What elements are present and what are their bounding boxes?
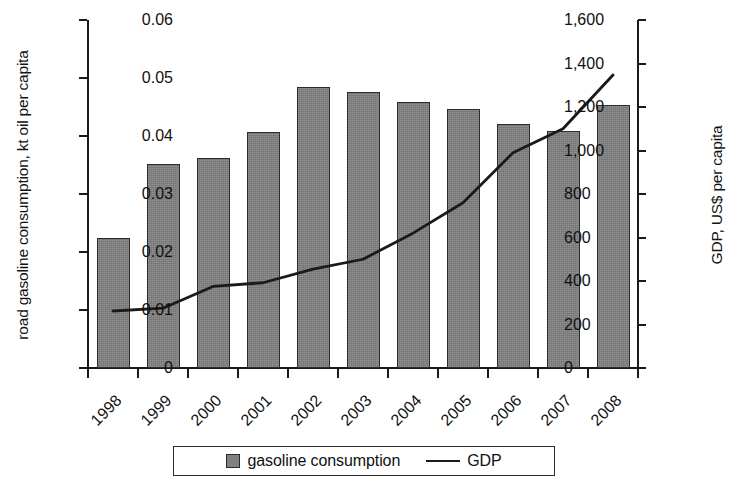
- x-axis-tick: [337, 369, 339, 378]
- y-axis-right-tick-label: 800: [564, 186, 591, 202]
- chart-figure: road gasoline consumption, kt oil per ca…: [0, 0, 735, 481]
- y-axis-left-tick: [79, 309, 87, 311]
- y-axis-left-tick-label: 0.04: [142, 128, 173, 144]
- y-axis-right-tick: [638, 193, 646, 195]
- y-axis-left-tick: [79, 19, 87, 21]
- y-axis-left-tick-label: 0.02: [142, 244, 173, 260]
- y-axis-right-tick-label: 200: [564, 317, 591, 333]
- x-axis-tick-label: 2002: [274, 392, 325, 443]
- y-axis-right-tick-label: 1,000: [564, 143, 604, 159]
- x-axis-tick: [387, 369, 389, 378]
- y-axis-left-tick-label: 0.01: [142, 302, 173, 318]
- y-axis-left-tick-label: 0.06: [142, 12, 173, 28]
- y-axis-right-tick-label: 0: [564, 360, 573, 376]
- y-axis-left-tick: [79, 193, 87, 195]
- x-axis-tick: [437, 369, 439, 378]
- chart-legend: gasoline consumption GDP: [173, 446, 555, 476]
- y-axis-right-tick-label: 1,400: [564, 56, 604, 72]
- y-axis-left-tick: [79, 135, 87, 137]
- y-axis-right-tick-label: 400: [564, 273, 591, 289]
- legend-line-icon: [426, 460, 460, 462]
- x-axis-tick: [587, 369, 589, 378]
- y-axis-right-tick: [638, 324, 646, 326]
- y-axis-right-tick-label: 1,200: [564, 99, 604, 115]
- y-axis-left-tick: [79, 367, 87, 369]
- x-axis-tick-label: 2001: [224, 392, 275, 443]
- x-axis-tick: [237, 369, 239, 378]
- y-axis-right-title: GDP, US$ per capita: [708, 30, 726, 360]
- y-axis-left-tick-label: 0: [164, 360, 173, 376]
- y-axis-left-tick-label: 0.03: [142, 186, 173, 202]
- y-axis-right-tick-label: 1,600: [564, 12, 604, 28]
- y-axis-left-title: road gasoline consumption, kt oil per ca…: [14, 30, 32, 360]
- y-axis-right-tick: [638, 150, 646, 152]
- y-axis-left-tick: [79, 77, 87, 79]
- x-axis-tick-label: 2000: [174, 392, 225, 443]
- x-axis-tick: [637, 369, 639, 378]
- y-axis-right-tick: [638, 106, 646, 108]
- legend-label-gasoline-consumption: gasoline consumption: [247, 452, 400, 470]
- x-axis-tick: [537, 369, 539, 378]
- x-axis-tick-label: 2003: [324, 392, 375, 443]
- legend-item-gdp: GDP: [426, 452, 501, 470]
- x-axis-tick-label: 2006: [474, 392, 525, 443]
- x-axis-tick: [287, 369, 289, 378]
- y-axis-left-tick: [79, 251, 87, 253]
- y-axis-right-tick-label: 600: [564, 230, 591, 246]
- x-axis-tick-label: 2005: [424, 392, 475, 443]
- y-axis-right-tick: [638, 280, 646, 282]
- x-axis-tick-label: 2004: [374, 392, 425, 443]
- gdp-line-path: [113, 75, 613, 311]
- x-axis-tick-label: 1998: [74, 392, 125, 443]
- x-axis-tick: [487, 369, 489, 378]
- x-axis-tick-label: 2008: [574, 392, 625, 443]
- y-axis-right-tick: [638, 63, 646, 65]
- x-axis-tick-label: 1999: [124, 392, 175, 443]
- y-axis-right-tick: [638, 367, 646, 369]
- legend-swatch-icon: [226, 454, 240, 468]
- legend-label-gdp: GDP: [467, 452, 501, 470]
- x-axis-tick: [187, 369, 189, 378]
- y-axis-right-tick: [638, 237, 646, 239]
- y-axis-left-tick-label: 0.05: [142, 70, 173, 86]
- x-axis-tick-label: 2007: [524, 392, 575, 443]
- legend-item-gasoline-consumption: gasoline consumption: [226, 452, 400, 470]
- y-axis-right-tick: [638, 19, 646, 21]
- x-axis-tick: [137, 369, 139, 378]
- x-axis-tick: [87, 369, 89, 378]
